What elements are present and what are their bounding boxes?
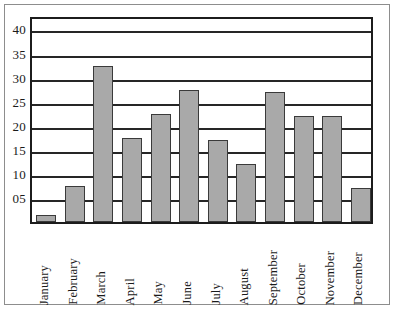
y-tick-label: 15 [0,144,26,157]
bar [93,66,113,222]
x-tick-label: June [181,281,194,305]
x-tick-label: October [295,263,308,305]
x-tick-label: November [324,251,337,305]
x-tick-label: September [267,250,280,305]
x-tick-label: December [352,252,365,305]
x-tick-april: April [116,227,145,305]
bar [208,140,228,222]
bar-chart-figure: 0510152025303540 JanuaryFebruaryMarchApr… [0,0,394,309]
x-tick-label: February [67,258,80,305]
y-tick-label: 35 [0,48,26,61]
x-tick-march: March [87,227,116,305]
bar [236,164,256,222]
plot-area [30,17,373,224]
bar [36,215,56,222]
bar [151,114,171,222]
x-tick-february: February [59,227,88,305]
y-tick-label: 05 [0,192,26,205]
x-tick-january: January [30,227,59,305]
x-tick-label: March [95,271,108,305]
bar [179,90,199,222]
y-axis: 0510152025303540 [0,0,30,309]
bar [122,138,142,222]
x-tick-label: July [210,283,223,305]
x-tick-august: August [230,227,259,305]
y-tick-label: 30 [0,72,26,85]
x-tick-september: September [259,227,288,305]
bar-series [32,19,371,222]
x-tick-july: July [202,227,231,305]
x-tick-june: June [173,227,202,305]
x-tick-december: December [344,227,373,305]
bar [322,116,342,222]
x-tick-november: November [316,227,345,305]
bar [65,186,85,222]
x-tick-label: May [152,281,165,305]
x-tick-label: April [124,278,137,305]
x-tick-label: January [38,265,51,305]
bar [265,92,285,222]
x-axis: JanuaryFebruaryMarchAprilMayJuneJulyAugu… [30,227,373,305]
y-tick-label: 20 [0,120,26,133]
bar [294,116,314,222]
x-tick-october: October [287,227,316,305]
y-tick-label: 10 [0,168,26,181]
y-tick-label: 40 [0,23,26,36]
bar [351,188,371,222]
y-tick-label: 25 [0,96,26,109]
x-tick-may: May [144,227,173,305]
x-tick-label: August [238,268,251,305]
